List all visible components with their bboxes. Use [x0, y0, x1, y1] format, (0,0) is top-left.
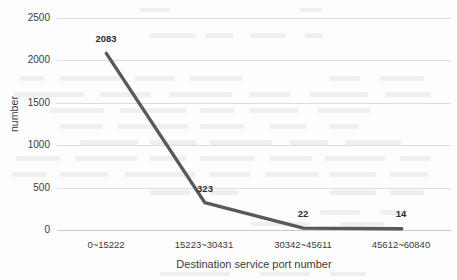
data-series-line	[106, 53, 402, 228]
x-tick-label-0: 0~15222	[57, 239, 155, 250]
x-tick-label-3: 45612~60840	[352, 239, 450, 250]
x-tick-label-2: 30342~45611	[254, 239, 352, 250]
line-chart-figure: number 2500 2000 1500 1000 500 0 2083 32…	[0, 0, 457, 280]
x-axis-title: Destination service port number	[57, 258, 451, 270]
point-label-3: 14	[381, 208, 421, 219]
point-label-0: 2083	[80, 33, 132, 44]
data-line-layer	[0, 0, 457, 280]
point-label-1: 323	[182, 183, 228, 194]
point-label-2: 22	[283, 208, 323, 219]
x-tick-label-1: 15223~30431	[155, 239, 253, 250]
